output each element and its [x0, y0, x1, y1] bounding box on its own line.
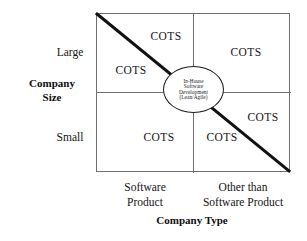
y-axis-title-line-1: Company [29, 76, 75, 90]
x-axis-title: Company Type [156, 213, 227, 227]
cots-label-top-left-lower: COTS [116, 64, 147, 76]
x-axis-category-other-than-software-product: Other than Software Product [203, 180, 283, 209]
y-axis-tick-small: Small [57, 131, 84, 143]
y-axis-title-line-2: Size [29, 90, 75, 104]
x-axis-category-software-product: Software Product [124, 180, 166, 209]
x-axis-category-1-line-1: Software [124, 180, 166, 195]
x-axis-category-2-line-1: Other than [203, 180, 283, 195]
cots-label-bottom-left: COTS [144, 131, 175, 143]
x-axis-category-1-line-2: Product [124, 195, 166, 210]
cots-label-top-left-upper: COTS [151, 30, 182, 42]
cots-label-bottom-right-inner: COTS [207, 131, 238, 143]
cots-label-top-right: COTS [231, 46, 262, 58]
center-node-in-house-development: In-House Software Development (Lean/Agil… [163, 66, 224, 113]
quadrant-matrix-figure: In-House Software Development (Lean/Agil… [0, 0, 307, 241]
center-node-line-4: (Lean/Agile) [180, 95, 208, 101]
x-axis-category-2-line-2: Software Product [203, 195, 283, 210]
cots-label-bottom-right-upper: COTS [248, 111, 279, 123]
y-axis-tick-large: Large [57, 46, 84, 58]
y-axis-title: Company Size [29, 76, 75, 104]
